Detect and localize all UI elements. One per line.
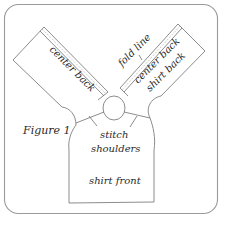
pattern-diagram: center back fold line center back shirt … (0, 0, 226, 229)
figure-caption: Figure 1 (22, 124, 71, 137)
label-left-center-back: center back (48, 44, 98, 94)
stitch-pointer-left (89, 116, 97, 126)
left-back-panel (13, 27, 108, 125)
label-shirt-front: shirt front (89, 175, 142, 186)
neck-hole (103, 96, 125, 120)
stitch-pointer-right (130, 116, 137, 127)
label-stitch: stitch (100, 129, 128, 140)
label-shoulders: shoulders (91, 143, 140, 154)
fold-line-pointer (139, 55, 142, 60)
